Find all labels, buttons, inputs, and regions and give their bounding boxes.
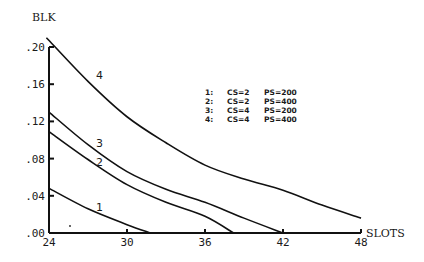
legend-id: 1: <box>205 88 213 97</box>
curve-label-1: 1 <box>96 201 103 214</box>
y-tick-label: .16 <box>25 78 45 91</box>
legend: 1:CS=2PS=2002:CS=2PS=4003:CS=4PS=2004:CS… <box>205 88 297 124</box>
curve-3 <box>49 112 283 233</box>
x-tick-label: 30 <box>120 236 133 249</box>
legend-cs: CS=2 <box>227 88 250 97</box>
y-tick-label: .08 <box>25 153 45 166</box>
legend-cs: CS=2 <box>227 97 250 106</box>
curve-2 <box>49 132 234 233</box>
legend-ps: PS=200 <box>264 88 297 97</box>
x-tick-label: 24 <box>42 236 56 249</box>
curve-label-3: 3 <box>96 137 103 150</box>
y-tick-label: .20 <box>25 41 45 54</box>
legend-cs: CS=4 <box>227 106 250 115</box>
x-tick-label: 42 <box>276 236 289 249</box>
legend-id: 3: <box>205 106 213 115</box>
x-axis-title: SLOTS <box>366 227 405 240</box>
x-tick-label: 36 <box>198 236 211 249</box>
legend-ps: PS=400 <box>264 115 297 124</box>
stray-dot <box>69 225 71 227</box>
legend-ps: PS=200 <box>264 106 297 115</box>
y-tick-label: .12 <box>25 115 45 128</box>
curve-label-2: 2 <box>96 156 103 169</box>
curve-4 <box>46 38 361 218</box>
y-tick-label: .04 <box>25 190 45 203</box>
legend-id: 4: <box>205 115 213 124</box>
curves <box>46 38 361 233</box>
axes: .00.04.08.12.16.202430364248 <box>25 41 368 249</box>
legend-id: 2: <box>205 97 213 106</box>
curve-label-4: 4 <box>96 69 103 82</box>
legend-cs: CS=4 <box>227 115 250 124</box>
blocking-chart: .00.04.08.12.16.202430364248 1:CS=2PS=20… <box>0 0 424 262</box>
legend-ps: PS=400 <box>264 97 297 106</box>
y-axis-title: BLK <box>32 11 56 24</box>
